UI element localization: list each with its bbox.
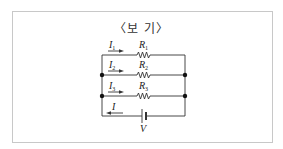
current-label-i2: I2 <box>108 59 115 71</box>
junction-dot-icon <box>183 94 187 98</box>
resistor-label-r1: R1 <box>138 39 148 51</box>
resistor-r1-icon <box>137 52 150 58</box>
current-label-i1: I1 <box>108 39 115 51</box>
branch-2 <box>102 72 185 78</box>
junction-dot-icon <box>100 73 104 77</box>
junction-dot-icon <box>183 73 187 77</box>
branch-3 <box>102 93 185 99</box>
resistor-label-r3: R3 <box>138 80 148 92</box>
resistor-r2-icon <box>137 72 150 78</box>
resistor-label-r2: R2 <box>138 59 148 71</box>
battery-voltage-label: V <box>140 123 148 134</box>
branch-1 <box>102 52 185 58</box>
parallel-circuit-diagram: I1 R1 I2 R2 I3 R3 I V <box>0 0 283 149</box>
battery-icon <box>142 109 146 123</box>
resistor-r3-icon <box>137 93 150 99</box>
current-label-i3: I3 <box>108 80 115 92</box>
total-current-label: I <box>111 101 116 112</box>
junction-dot-icon <box>100 94 104 98</box>
